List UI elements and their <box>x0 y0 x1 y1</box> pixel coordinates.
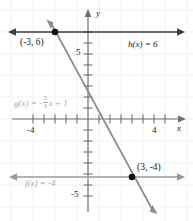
function-label-h: h(x) = 6 <box>128 40 158 49</box>
function-label-g-fraction: 53 <box>43 95 49 111</box>
y-axis-label: y <box>96 9 100 18</box>
x-axis <box>12 115 186 124</box>
x-axis-label: x <box>177 124 181 133</box>
y-tick-label-5: 5 <box>76 48 81 57</box>
function-label-g-suffix: x + 1 <box>49 98 68 108</box>
x-tick-label-4: 4 <box>152 126 157 135</box>
line-h-of-x <box>8 28 185 36</box>
x-tick-label-minus-4: -4 <box>27 126 35 135</box>
coordinate-graph-figure: y x -4 4 5 -5 (-3, 6) (3, -4) h(x) = 6 f… <box>0 0 193 221</box>
point-marker-upper <box>52 29 59 36</box>
y-tick-label-minus-5: -5 <box>71 190 79 199</box>
function-label-f: f(x) = -4 <box>25 179 56 188</box>
fraction-denominator: 3 <box>43 103 49 110</box>
point-label-lower: (3, -4) <box>137 163 161 173</box>
function-label-g: g(x) = -53x + 1 <box>14 95 68 111</box>
function-label-g-prefix: g(x) = - <box>14 98 42 108</box>
point-label-upper: (-3, 6) <box>20 38 44 48</box>
point-marker-lower <box>129 174 136 181</box>
y-axis <box>84 9 93 212</box>
